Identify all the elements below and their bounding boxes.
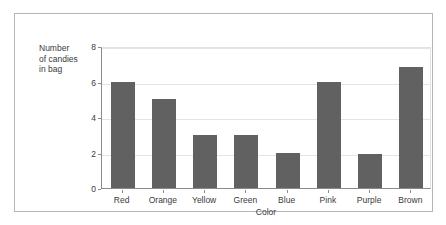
cut-off-text-fragment: AT 3.0% [14, 0, 50, 2]
bar-slot [185, 46, 226, 188]
plot-area [101, 47, 431, 189]
x-axis-tick-mark [328, 190, 329, 193]
x-axis-tick-mark [369, 190, 370, 193]
bar [152, 99, 176, 188]
bar [193, 135, 217, 188]
bar-slot [350, 46, 391, 188]
y-axis-tick-label: 2 [74, 149, 96, 159]
x-axis-tick-label: Green [234, 195, 258, 205]
cut-off-text-fragment: AT 2.0% [128, 0, 164, 2]
bar-slot [308, 46, 349, 188]
bar-slot [391, 46, 432, 188]
x-axis-tick-label: Red [114, 195, 130, 205]
bar-series [102, 48, 430, 188]
x-axis-tick-label: Pink [320, 195, 337, 205]
y-axis-title-line-2: of candies [39, 54, 97, 65]
bar [358, 154, 382, 188]
y-axis-tick-mark [98, 83, 101, 84]
y-axis-tick-mark [98, 118, 101, 119]
bar-slot [267, 46, 308, 188]
x-axis-tick-mark [287, 190, 288, 193]
x-axis-tick-mark [163, 190, 164, 193]
x-axis-tick-label: Blue [278, 195, 295, 205]
y-axis-tick-mark [98, 189, 101, 190]
y-axis-title-line-3: in bag [39, 64, 97, 75]
x-axis-tick-mark [410, 190, 411, 193]
bar [399, 67, 423, 188]
cut-off-text-fragment: AT 5.0% [355, 0, 391, 2]
x-axis-tick-label: Yellow [192, 195, 216, 205]
y-axis-tick-label: 6 [74, 78, 96, 88]
bar-slot [102, 46, 143, 188]
bar [317, 82, 341, 189]
x-axis-tick-label: Brown [398, 195, 422, 205]
x-axis-tick-label: Purple [357, 195, 382, 205]
cut-off-text-fragment: AT 2.0% [243, 0, 279, 2]
x-axis-tick-mark [122, 190, 123, 193]
x-axis-tick-mark [245, 190, 246, 193]
y-axis-tick-label: 0 [74, 184, 96, 194]
y-axis-tick-label: 4 [74, 113, 96, 123]
bar-slot [143, 46, 184, 188]
cut-off-text-strip: AT 3.0%AT 2.0%AT 2.0%AT 5.0% [0, 0, 446, 11]
x-axis-title: Color [101, 207, 431, 217]
x-axis-tick-mark [204, 190, 205, 193]
bar [111, 82, 135, 189]
bar-slot [226, 46, 267, 188]
bar [276, 153, 300, 189]
y-axis-tick-label: 8 [74, 42, 96, 52]
y-axis-tick-mark [98, 47, 101, 48]
chart-figure-frame: Number of candies in bag 02468 RedOrange… [14, 13, 433, 212]
bar [234, 135, 258, 188]
y-axis-tick-mark [98, 154, 101, 155]
x-axis-tick-label: Orange [149, 195, 177, 205]
